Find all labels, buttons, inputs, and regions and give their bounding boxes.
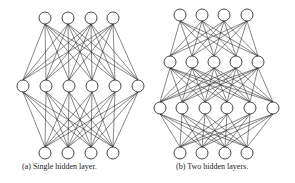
- hidden-1-neuron: [109, 80, 121, 92]
- connection-edge: [192, 68, 273, 102]
- connection-edge: [113, 92, 138, 147]
- hidden-1-neuron: [186, 56, 198, 68]
- connection-edge: [23, 24, 45, 80]
- connection-edge: [45, 92, 115, 147]
- hidden-1-neuron: [252, 56, 264, 68]
- connection-edge: [45, 92, 92, 147]
- connection-edge: [92, 24, 113, 80]
- hidden-1-neuron: [17, 80, 29, 92]
- output-neuron: [39, 147, 51, 159]
- hidden-1-neuron: [208, 56, 220, 68]
- neural-network-diagram: [0, 0, 295, 183]
- connection-edge: [180, 114, 227, 147]
- connection-edge: [225, 114, 273, 147]
- output-neuron: [241, 147, 253, 159]
- hidden-1-neuron: [86, 80, 98, 92]
- connection-edge: [224, 21, 258, 56]
- connection-edge: [113, 24, 138, 80]
- connection-edge: [23, 24, 91, 80]
- output-neuron: [219, 147, 231, 159]
- connection-edge: [182, 68, 258, 102]
- connection-edge: [160, 68, 236, 102]
- connection-edge: [247, 21, 258, 56]
- connection-edge: [92, 92, 113, 147]
- input-neuron: [39, 12, 51, 24]
- connection-edge: [224, 21, 236, 56]
- hidden-1-neuron: [63, 80, 75, 92]
- connection-edge: [45, 92, 69, 147]
- connection-edge: [23, 92, 45, 147]
- two-hidden-layer-network: [154, 9, 279, 159]
- neurons: [154, 9, 279, 159]
- connection-edge: [236, 21, 247, 56]
- input-neuron: [196, 9, 208, 21]
- hidden-1-neuron: [164, 56, 176, 68]
- input-neuron: [174, 9, 186, 21]
- single-hidden-layer-network: [17, 12, 144, 159]
- hidden-1-neuron: [230, 56, 242, 68]
- hidden-2-neuron: [176, 102, 188, 114]
- output-neuron: [85, 147, 97, 159]
- hidden-2-neuron: [199, 102, 211, 114]
- output-neuron: [174, 147, 186, 159]
- hidden-2-neuron: [267, 102, 279, 114]
- output-neuron: [62, 147, 74, 159]
- hidden-1-neuron: [132, 80, 144, 92]
- caption-two-hidden-layers: (b) Two hidden layers.: [176, 162, 248, 171]
- hidden-2-neuron: [244, 102, 256, 114]
- connection-edge: [247, 114, 250, 147]
- hidden-1-neuron: [40, 80, 52, 92]
- connection-edge: [180, 114, 182, 147]
- input-neuron: [241, 9, 253, 21]
- input-neuron: [85, 12, 97, 24]
- input-neuron: [62, 12, 74, 24]
- hidden-2-neuron: [154, 102, 166, 114]
- input-neuron: [107, 12, 119, 24]
- connection-edge: [180, 114, 205, 147]
- connection-edge: [247, 114, 273, 147]
- connection-edge: [23, 24, 68, 80]
- connections: [160, 21, 273, 147]
- output-neuron: [196, 147, 208, 159]
- connection-edge: [45, 92, 138, 147]
- output-neuron: [107, 147, 119, 159]
- caption-single-hidden-layer: (a) Single hidden layer.: [22, 162, 97, 171]
- hidden-2-neuron: [221, 102, 233, 114]
- input-neuron: [218, 9, 230, 21]
- connection-edge: [69, 24, 91, 80]
